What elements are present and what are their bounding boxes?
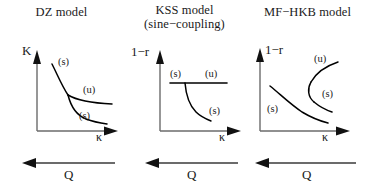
x-axis-label-dz: κ <box>96 131 102 144</box>
branch-label-dz-2: (s) <box>79 110 90 121</box>
branch-label-kss-1: (u) <box>205 68 217 79</box>
branch-label-mfhkb-2: (s) <box>267 103 278 114</box>
panel-kss-model: KSS model (sine−coupling) 1−r κ (s) (u) … <box>123 0 246 194</box>
x-axis-label-mfhkb: κ <box>322 131 328 144</box>
q-label-kss: Q <box>187 168 196 181</box>
plot-dz <box>0 0 123 194</box>
bifurcation-figure: DZ model K κ (s) <box>0 0 370 194</box>
plot-mfhkb <box>246 0 369 194</box>
y-axis-label-mfhkb: 1−r <box>265 43 283 56</box>
branch-label-mfhkb-1: (s) <box>322 88 333 99</box>
x-axis-label-kss: κ <box>219 131 225 144</box>
y-axis-label-kss: 1−r <box>131 45 149 58</box>
y-axis-mfhkb <box>256 48 264 131</box>
curve-kss-stable-descending <box>185 83 211 121</box>
q-label-dz: Q <box>64 168 73 181</box>
curve-mfhkb-unstable-fold <box>311 62 338 82</box>
y-axis-kss <box>156 50 164 131</box>
x-axis-mfhkb <box>260 127 350 136</box>
panel-dz-model: DZ model K κ (s) <box>0 0 123 194</box>
y-axis-label-dz: K <box>22 44 31 57</box>
q-label-mfhkb: Q <box>302 168 311 181</box>
branch-label-kss-0: (s) <box>170 68 181 79</box>
curve-mfhkb-stable-fold <box>314 102 332 112</box>
branch-label-kss-2: (s) <box>209 105 220 116</box>
plot-kss <box>123 0 246 194</box>
curve-dz-unstable <box>68 95 112 104</box>
branch-label-dz-1: (u) <box>83 84 95 95</box>
branch-label-dz-0: (s) <box>58 56 69 67</box>
curve-mfhkb-fold-nose <box>309 82 314 102</box>
curve-dz-stable-upper <box>52 64 68 95</box>
panel-mfhkb-model: MF−HKB model 1−r κ (u) <box>246 0 369 194</box>
x-axis-dz <box>37 127 118 136</box>
x-axis-kss <box>160 127 241 136</box>
branch-label-mfhkb-0: (u) <box>314 53 326 64</box>
curve-mfhkb-stable-descending <box>270 86 328 123</box>
y-axis-dz <box>33 50 41 131</box>
